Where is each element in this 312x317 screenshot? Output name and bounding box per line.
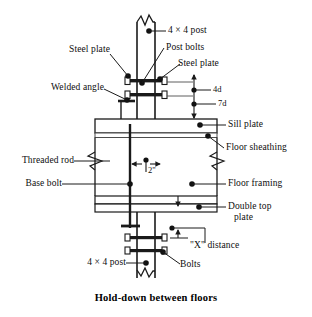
lower-upper-bolt-bar [127,236,165,239]
lower-bolt-bar [127,93,165,96]
dot-2in [143,157,148,162]
label-x-distance: "X" distance [190,240,239,251]
sill-and-sheathing-group [95,119,217,138]
label-steel-plate-right: Steel plate [178,58,219,69]
lower-upper-left-plate [125,234,130,241]
label-post-top: 4 × 4 post [168,25,207,36]
label-sill-plate: Sill plate [228,119,263,130]
label-7d: 7d [218,98,227,109]
upper-right-steel-plate [162,77,167,85]
lower-post-break-symbol [137,268,155,277]
label-post-bolts: Post bolts [166,42,204,53]
dot-7d [191,101,196,106]
label-4d: 4d [213,84,222,95]
dimension-4d-7d [167,75,216,118]
lower-lower-left-plate [125,247,130,254]
label-threaded-rod: Threaded rod [2,155,74,166]
label-bolts: Bolts [180,259,201,270]
label-floor-framing: Floor framing [228,178,282,189]
label-double-top-plate-line2: plate [234,212,253,223]
figure-container: 4 × 4 post Post bolts Steel plate Steel … [0,0,312,317]
leader-steel-plate-left [110,54,128,76]
label-post-bottom: 4 × 4 post [58,257,126,268]
leader-bolts [163,252,180,264]
lower-lower-bolt-bar [127,249,165,252]
lower-post-group [137,212,155,278]
figure-caption: Hold-down between floors [0,292,312,303]
label-steel-plate-left: Steel plate [42,44,110,55]
leader-welded-angle [104,89,127,100]
label-base-bolt: Base bolt [2,178,62,189]
top-plate-upper-band [95,196,217,204]
lower-upper-right-plate [162,234,167,241]
dot-4d [191,87,196,92]
floor-sheathing-band [95,133,217,138]
leader-steel-plate-right [160,64,180,79]
label-floor-sheathing: Floor sheathing [226,142,287,153]
upper-post-break-symbol [137,15,155,25]
label-2in: 2" [148,165,156,176]
label-welded-angle: Welded angle [18,82,104,93]
floor-framing-group [88,138,224,197]
label-double-top-plate-line1: Double top [228,201,271,212]
lower-right-steel-plate [162,91,167,99]
